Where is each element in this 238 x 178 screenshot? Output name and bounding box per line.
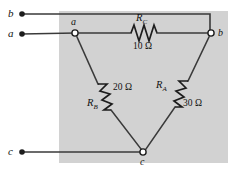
node-dot-c	[140, 149, 146, 155]
node-label-a: a	[71, 17, 76, 27]
terminal-label-c: c	[8, 146, 13, 157]
node-dot-b	[208, 30, 214, 36]
resistor-rc-name-subscript: C	[142, 18, 147, 26]
node-label-c: c	[140, 157, 144, 167]
terminal-dot-a	[19, 31, 25, 37]
resistor-rb-value: 20 Ω	[113, 83, 132, 93]
resistor-ra-name: RA	[156, 80, 167, 93]
resistor-rc-value: 10 Ω	[133, 42, 152, 52]
resistor-rb-name-subscript: B	[93, 103, 97, 111]
terminal-dot-c	[19, 149, 25, 155]
resistor-rb-name: RB	[87, 98, 98, 111]
wire-terminal-a-to-node-a	[22, 33, 75, 34]
terminal-dot-b	[19, 11, 25, 17]
circuit-diagram: b a c a b c RC 10 Ω RB 20 Ω RA 30 Ω	[0, 0, 238, 178]
terminal-label-a: a	[8, 28, 14, 39]
node-dot-a	[72, 30, 78, 36]
terminal-label-b: b	[8, 8, 14, 19]
node-label-b: b	[218, 28, 223, 38]
resistor-rc-name: RC	[136, 13, 147, 26]
resistor-ra-name-subscript: A	[162, 85, 166, 93]
resistor-ra-value: 30 Ω	[183, 99, 202, 109]
